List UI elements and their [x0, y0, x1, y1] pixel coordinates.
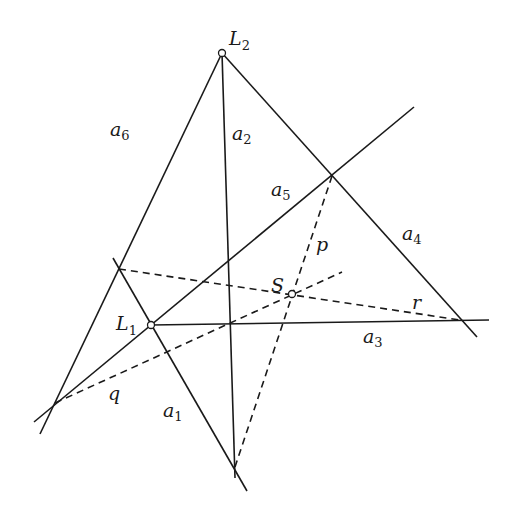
point-S	[289, 291, 296, 298]
label-a6: a6	[110, 118, 130, 143]
label-r: r	[412, 291, 423, 313]
line-p	[235, 176, 332, 467]
line-a6	[40, 53, 222, 434]
point-L1	[148, 322, 155, 329]
projective-diagram: L2 L1 S a6 a2 a5 a4 a3 a1 p q r	[0, 0, 515, 514]
point-L2	[219, 50, 226, 57]
label-a4: a4	[402, 222, 422, 247]
label-L2: L2	[228, 27, 250, 53]
label-S: S	[271, 274, 284, 296]
label-a1: a1	[163, 399, 183, 424]
line-a1	[113, 258, 247, 491]
line-a3	[151, 320, 489, 325]
line-a5	[34, 107, 414, 422]
label-a2: a2	[232, 122, 252, 147]
line-q	[55, 272, 342, 403]
line-a4	[222, 53, 477, 337]
label-L1: L1	[115, 312, 137, 338]
label-a5: a5	[271, 178, 291, 203]
label-a3: a3	[363, 325, 383, 350]
label-q: q	[108, 382, 120, 404]
label-p: p	[316, 233, 328, 255]
